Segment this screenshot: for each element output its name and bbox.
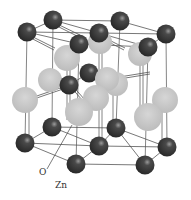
oxygen-atom [134,103,162,131]
zinc-atom [43,118,62,137]
zinc-atom [136,156,155,175]
zinc-atom [111,12,130,31]
zinc-atom [44,11,63,30]
zinc-atom [139,38,158,57]
zinc-label: Zn [55,180,67,190]
zinc-atom [60,76,79,95]
oxygen-label: O [39,167,46,177]
zinc-atom [18,23,37,42]
zinc-atom [90,24,109,43]
oxygen-atom [65,98,93,126]
zinc-atom [16,134,35,153]
zinc-atom [67,155,86,174]
zinc-atom [90,137,109,156]
zinc-atom [107,119,126,138]
zinc-atom [158,138,177,157]
zinc-atom [70,35,89,54]
zinc-atom [157,25,176,44]
zno-crystal-diagram: O Zn [0,0,191,200]
oxygen-atom [38,68,62,92]
oxygen-atom [12,87,38,113]
